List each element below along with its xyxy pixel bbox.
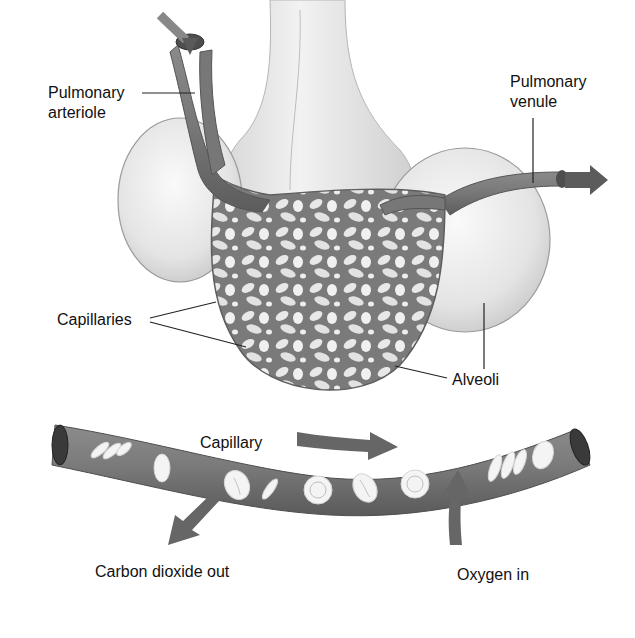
capillary-label: Capillary bbox=[200, 433, 262, 453]
pulmonary-venule-label: Pulmonary venule bbox=[510, 72, 586, 112]
tube-opening-left bbox=[52, 425, 68, 465]
alveoli-label: Alveoli bbox=[452, 370, 499, 390]
co2-out-arrow bbox=[168, 495, 220, 545]
leader-capillaries-1 bbox=[150, 302, 216, 318]
oxygen-in-label: Oxygen in bbox=[457, 565, 529, 585]
pulmonary-arteriole-label-line2: arteriole bbox=[48, 103, 124, 123]
pulmonary-venule-label-line2: venule bbox=[510, 92, 586, 112]
capillaries-label: Capillaries bbox=[57, 310, 132, 330]
pulmonary-arteriole-label-line1: Pulmonary bbox=[48, 83, 124, 103]
pulmonary-arteriole-label: Pulmonary arteriole bbox=[48, 83, 124, 123]
bronchiole bbox=[225, 0, 413, 220]
carbon-dioxide-out-label: Carbon dioxide out bbox=[95, 562, 229, 582]
venule-flow-arrow bbox=[565, 165, 608, 195]
blood-flow-arrow bbox=[297, 432, 398, 460]
leader-alveoli-2 bbox=[395, 366, 447, 378]
diagram-stage: Pulmonary arteriole Pulmonary venule Cap… bbox=[0, 0, 635, 638]
pulmonary-venule-label-line1: Pulmonary bbox=[510, 72, 586, 92]
